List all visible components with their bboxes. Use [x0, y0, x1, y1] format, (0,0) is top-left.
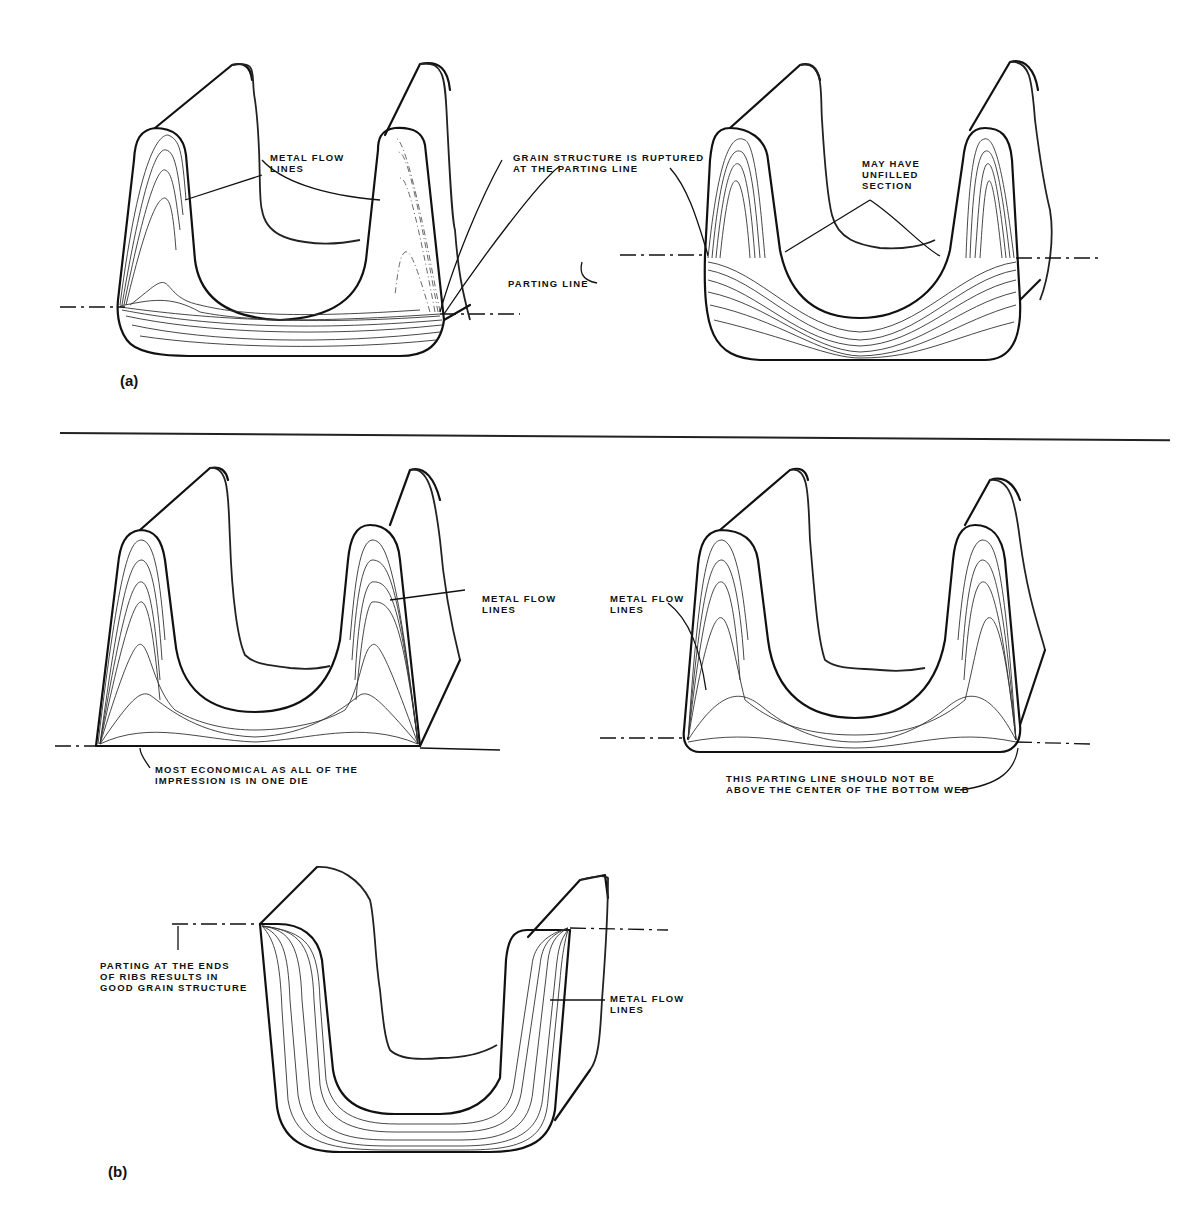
figure-a-right: [620, 61, 1100, 360]
label-b3-parting-ends: PARTING AT THE ENDS OF RIBS RESULTS IN G…: [100, 960, 248, 993]
figure-a-left: [60, 63, 597, 356]
figure-b2: [600, 469, 1090, 790]
label-b3-metal-flow: METAL FLOW LINES: [610, 993, 684, 1015]
label-a-parting-line: PARTING LINE: [508, 278, 589, 289]
panel-label-b: (b): [108, 1163, 127, 1180]
label-b1-metal-flow: METAL FLOW LINES: [482, 593, 556, 615]
label-a-grain-ruptured: GRAIN STRUCTURE IS RUPTURED AT THE PARTI…: [513, 152, 704, 174]
label-b2-parting-note: THIS PARTING LINE SHOULD NOT BE ABOVE TH…: [726, 773, 970, 795]
forging-diagram: [0, 0, 1196, 1206]
figure-b3: [172, 867, 668, 1152]
label-a-metal-flow: METAL FLOW LINES: [270, 152, 344, 174]
label-b1-economical: MOST ECONOMICAL AS ALL OF THE IMPRESSION…: [155, 764, 358, 786]
figure-b1: [55, 468, 500, 769]
label-b2-metal-flow: METAL FLOW LINES: [610, 593, 684, 615]
label-a-unfilled: MAY HAVE UNFILLED SECTION: [862, 158, 920, 191]
panel-label-a: (a): [120, 372, 138, 389]
